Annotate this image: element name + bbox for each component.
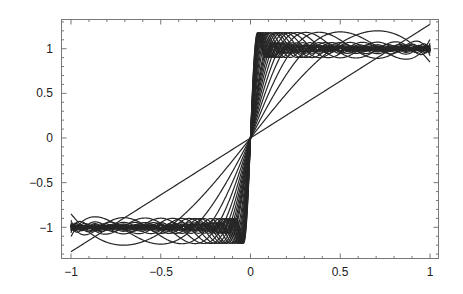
x-tick-label: −1 xyxy=(64,265,78,279)
chart-curves xyxy=(71,24,430,251)
y-tick-label: −0.5 xyxy=(29,176,53,190)
x-tick-label: 1 xyxy=(427,265,434,279)
y-tick-label: −1 xyxy=(39,221,53,235)
y-tick-label: 0 xyxy=(46,131,53,145)
x-tick-label: 0.5 xyxy=(332,265,349,279)
y-tick-label: 0.5 xyxy=(36,86,53,100)
partial-sum-curve xyxy=(71,33,430,244)
y-tick-label: 1 xyxy=(46,42,53,56)
x-tick-label: −0.5 xyxy=(149,265,173,279)
x-tick-label: 0 xyxy=(247,265,254,279)
chart: −1 −0.5 0 0.5 1 1 0.5 0 −0.5 −1 xyxy=(0,0,463,294)
